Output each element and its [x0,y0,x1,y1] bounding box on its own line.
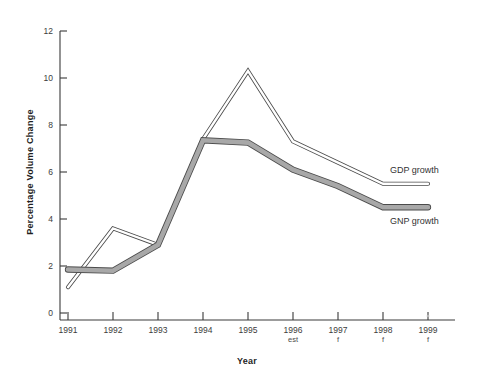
x-axis: 199119921993199419951996est1997f1998f199… [59,312,455,344]
line-chart: 024681012 199119921993199419951996est199… [0,0,500,383]
x-axis-tick-sublabel: f [382,335,385,344]
x-axis-title: Year [237,356,257,366]
y-axis-tick-label: 0 [48,308,53,318]
y-axis-tick-label: 6 [48,167,53,177]
x-axis-tick-sublabel: f [337,335,340,344]
x-axis-tick-sublabel: est [288,335,299,344]
series-label-gnp: GNP growth [390,216,439,226]
series-gnp [68,140,428,270]
x-axis-tick-label: 1997 [329,325,348,335]
x-axis-tick-label: 1998 [374,325,393,335]
scan-speck [427,315,430,318]
x-axis-tick-label: 1996 [284,325,303,335]
series-layer [68,71,428,287]
y-axis-tick-label: 8 [48,120,53,130]
y-axis-tick-label: 10 [44,73,54,83]
y-axis-tick-label: 4 [48,214,53,224]
series-line-fill [68,71,428,287]
series-line-fill [68,140,428,270]
x-axis-tick-sublabel: f [427,335,430,344]
x-axis-tick-label: 1992 [104,325,123,335]
x-axis-tick-label: 1991 [59,325,78,335]
x-axis-tick-label: 1999 [419,325,438,335]
series-label-gdp: GDP growth [390,165,439,175]
y-axis-title: Percentage Volume Change [25,109,35,235]
series-gdp [68,71,428,287]
x-axis-tick-label: 1993 [149,325,168,335]
series-label-layer: GDP growthGNP growth [390,165,439,227]
chart-container: 024681012 199119921993199419951996est199… [0,0,500,383]
y-axis-tick-label: 2 [48,261,53,271]
y-axis: 024681012 [44,26,67,320]
y-axis-tick-label: 12 [44,26,54,36]
x-axis-tick-label: 1995 [239,325,258,335]
x-axis-tick-label: 1994 [194,325,213,335]
